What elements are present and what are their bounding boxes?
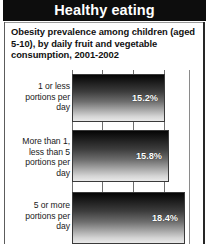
bar-value-label-2: 15.8% — [136, 151, 168, 161]
bar-category-label-1-line-1: 1 or less — [8, 81, 70, 92]
bar-category-label-1-line-3: day — [8, 102, 70, 113]
bar-category-label-1-line-2: portions per — [8, 92, 70, 103]
table-row: 1 or less portions per day 15.2% — [5, 70, 203, 126]
frame-rule-right — [203, 22, 205, 244]
table-row: More than 1, less than 5 portions per da… — [5, 126, 203, 188]
bar-2: 15.8% — [72, 130, 169, 182]
page-title: Healthy eating — [54, 3, 155, 18]
bar-value-label-3: 18.4% — [152, 213, 184, 223]
header-banner: Healthy eating — [3, 0, 206, 21]
bar-category-label-3-line-3: day — [8, 221, 70, 232]
table-row: 5 or more portions per day 18.4% — [5, 188, 203, 244]
chart-subtitle: Obesity prevalence among children (aged … — [11, 26, 197, 61]
bar-category-label-1: 1 or less portions per day — [8, 81, 70, 113]
bar-1: 15.2% — [72, 74, 165, 122]
bar-category-label-2-line-2: less than 5 — [8, 147, 70, 158]
bar-3: 18.4% — [72, 192, 185, 244]
bar-category-label-2-line-1: More than 1, — [8, 136, 70, 147]
bar-category-label-2-line-4: day — [8, 168, 70, 179]
bar-category-label-3: 5 or more portions per day — [8, 200, 70, 232]
bar-category-label-3-line-1: 5 or more — [8, 200, 70, 211]
bar-category-label-3-line-2: portions per — [8, 211, 70, 222]
frame-rule-top — [4, 22, 204, 23]
bar-chart: 1 or less portions per day 15.2% More th… — [5, 70, 203, 244]
bar-value-label-1: 15.2% — [132, 93, 164, 103]
bar-category-label-2-line-3: portions per — [8, 157, 70, 168]
infographic-card: Healthy eating Obesity prevalence among … — [0, 0, 215, 244]
bar-category-label-2: More than 1, less than 5 portions per da… — [8, 136, 70, 178]
